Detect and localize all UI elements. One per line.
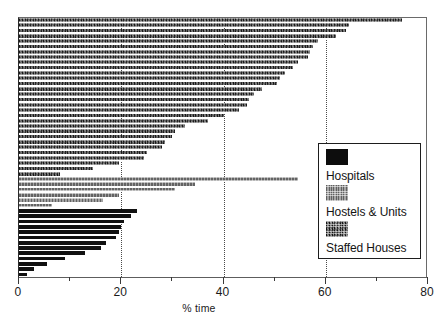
bar-staffed bbox=[19, 119, 208, 124]
xtick-10 bbox=[69, 277, 70, 281]
legend-swatch-hospitals-icon bbox=[326, 149, 348, 165]
bar-staffed bbox=[19, 108, 239, 113]
bar-staffed bbox=[19, 161, 119, 166]
bar-staffed bbox=[19, 172, 60, 177]
legend-swatch-hostels-units-icon bbox=[326, 185, 348, 201]
bar-hospitals bbox=[19, 257, 65, 262]
bar-staffed bbox=[19, 29, 346, 34]
legend-label-hospitals: Hospitals bbox=[326, 169, 374, 183]
xtick-label-80: 80 bbox=[420, 285, 434, 299]
bar-staffed bbox=[19, 55, 308, 60]
bar-staffed bbox=[19, 18, 402, 23]
bar-staffed bbox=[19, 23, 349, 28]
xtick-80 bbox=[427, 277, 428, 284]
bar-hospitals bbox=[19, 225, 121, 230]
xtick-40 bbox=[223, 277, 224, 284]
xtick-label-20: 20 bbox=[113, 285, 127, 299]
bar-staffed bbox=[19, 76, 280, 81]
bar-hospitals bbox=[19, 236, 116, 241]
legend-item-hospitals: Hospitals bbox=[326, 149, 420, 185]
bar-staffed bbox=[19, 129, 175, 134]
bar-staffed bbox=[19, 66, 293, 71]
bar-staffed bbox=[19, 145, 162, 150]
xtick-0 bbox=[18, 277, 19, 284]
bar-staffed bbox=[19, 82, 277, 87]
bar-hostels bbox=[19, 198, 103, 203]
xtick-label-60: 60 bbox=[318, 285, 332, 299]
bar-staffed bbox=[19, 34, 336, 39]
bar-hospitals bbox=[19, 262, 47, 267]
bar-staffed bbox=[19, 140, 165, 145]
bar-staffed bbox=[19, 50, 310, 55]
bar-hospitals bbox=[19, 267, 34, 272]
xtick-60 bbox=[325, 277, 326, 284]
bar-hospitals bbox=[19, 241, 106, 246]
bar-staffed bbox=[19, 39, 318, 44]
bar-hostels bbox=[19, 204, 52, 209]
bar-staffed bbox=[19, 151, 147, 156]
xtick-50 bbox=[274, 277, 275, 281]
legend-swatch-staffed-houses-icon bbox=[326, 221, 348, 237]
bar-hospitals bbox=[19, 209, 137, 214]
bar-staffed bbox=[19, 124, 185, 129]
xtick-70 bbox=[376, 277, 377, 281]
bar-hostels bbox=[19, 188, 175, 193]
bar-staffed bbox=[19, 60, 298, 65]
bar-staffed bbox=[19, 114, 224, 119]
chart-legend: Hospitals Hostels & Units Staffed Houses bbox=[318, 143, 421, 259]
xtick-30 bbox=[171, 277, 172, 281]
legend-label-hostels-units: Hostels & Units bbox=[326, 205, 407, 219]
legend-item-staffed-houses: Staffed Houses bbox=[326, 221, 420, 257]
bar-staffed bbox=[19, 103, 247, 108]
bar-chart-figure: 0 20 40 60 80 % time Hospitals Hostels &… bbox=[0, 0, 446, 323]
bar-staffed bbox=[19, 135, 172, 140]
bar-hospitals bbox=[19, 246, 101, 251]
legend-item-hostels-units: Hostels & Units bbox=[326, 185, 420, 221]
bar-hostels bbox=[19, 193, 119, 198]
bar-hostels bbox=[19, 177, 298, 182]
bar-staffed bbox=[19, 87, 262, 92]
bar-staffed bbox=[19, 98, 249, 103]
bar-hospitals bbox=[19, 214, 131, 219]
xtick-label-40: 40 bbox=[216, 285, 230, 299]
x-axis-label: % time bbox=[0, 302, 422, 314]
bar-hospitals bbox=[19, 220, 124, 225]
legend-label-staffed-houses: Staffed Houses bbox=[326, 241, 406, 255]
bar-hospitals bbox=[19, 251, 85, 256]
bar-hospitals bbox=[19, 230, 119, 235]
bar-staffed bbox=[19, 92, 254, 97]
bar-staffed bbox=[19, 71, 285, 76]
xtick-label-0: 0 bbox=[15, 285, 22, 299]
xtick-20 bbox=[120, 277, 121, 284]
bar-staffed bbox=[19, 156, 144, 161]
bar-staffed bbox=[19, 167, 93, 172]
bar-staffed bbox=[19, 45, 313, 50]
bar-hostels bbox=[19, 182, 195, 187]
